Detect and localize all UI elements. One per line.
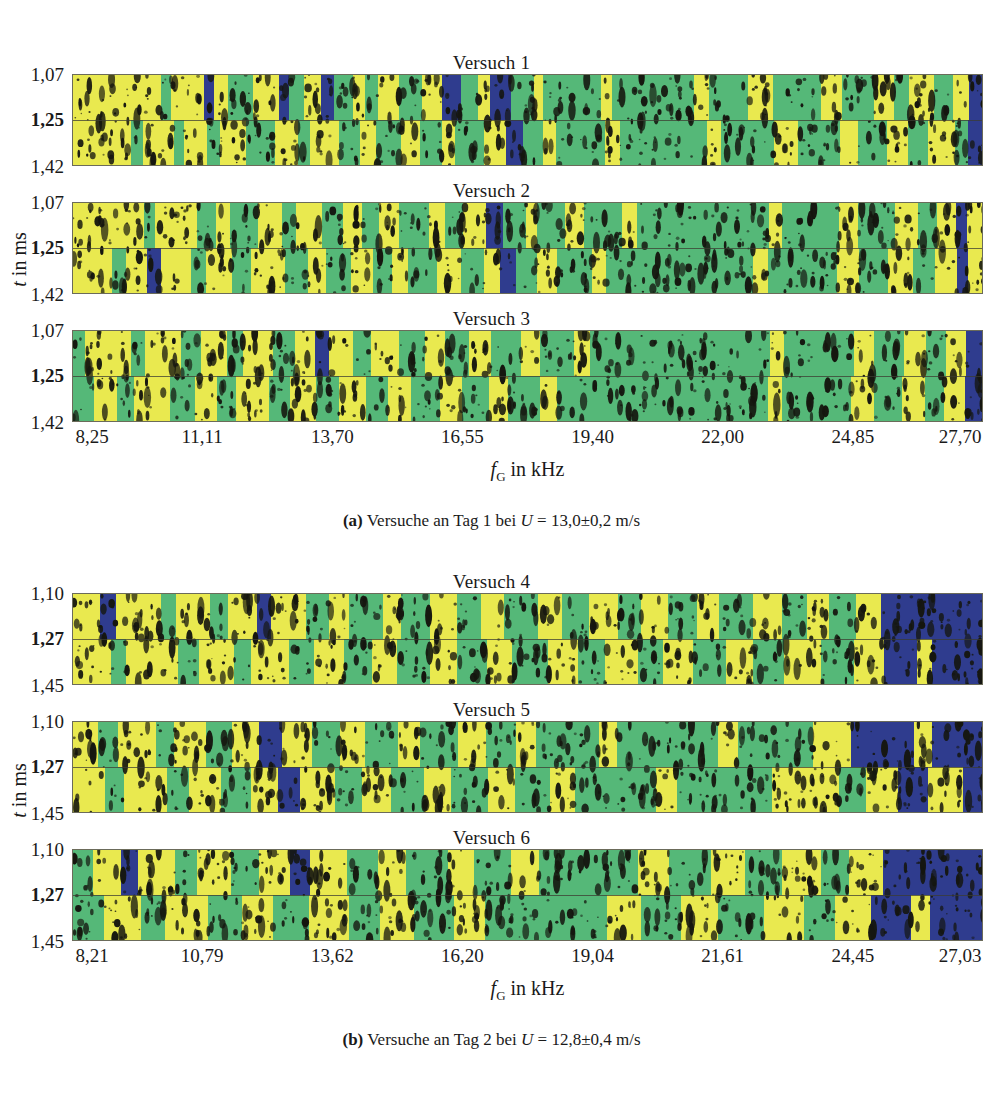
x-axis-title-a: fG in kHz: [72, 458, 983, 485]
panel-group-a: Versuch 11,071,251,42Versuch 21,071,251,…: [0, 52, 983, 422]
caption-pre-a: Versuche an Tag 1 bei: [367, 511, 517, 530]
x-axis-tick-3: 16,55: [441, 426, 484, 448]
panel-block: Versuch 41,101,271,45: [0, 571, 983, 685]
caption-a: (a) Versuche an Tag 1 bei U = 13,0±0,2 m…: [0, 511, 983, 531]
panel-block: Versuch 21,071,251,42: [0, 180, 983, 294]
heatmap-plot[interactable]: [72, 721, 983, 813]
x-axis-tick-2: 13,62: [311, 945, 354, 967]
caption-label-a: (a): [343, 511, 363, 530]
y-axis-tick-2: 1,42: [31, 157, 64, 176]
y-axis-tick-labels: 1,101,271,45: [0, 721, 72, 813]
panel-row: 1,071,251,42: [0, 202, 983, 294]
panel-row: 1,101,271,45: [0, 593, 983, 685]
y-axis-tick-0: 1,10: [31, 840, 64, 859]
subfigure-b: t in ms Versuch 41,101,271,45Versuch 51,…: [0, 531, 983, 1050]
caption-symbol-b: U: [521, 1030, 533, 1049]
x-axis-tick-6: 24,45: [831, 945, 874, 967]
panel-block: Versuch 31,071,251,42: [0, 308, 983, 422]
y-axis-tick-1: 1,25: [31, 366, 64, 385]
heatmap-plot[interactable]: [72, 849, 983, 941]
x-axis-ticks-a: 8,2511,1113,7016,5519,4022,0024,8527,70: [72, 422, 983, 456]
y-axis-tick-labels: 1,101,271,45: [0, 849, 72, 941]
panel-row: 1,071,251,42: [0, 330, 983, 422]
y-axis-tick-labels: 1,071,251,42: [0, 330, 72, 422]
y-axis-tick-0: 1,07: [31, 193, 64, 212]
subfigure-a: t in ms Versuch 11,071,251,42Versuch 21,…: [0, 0, 983, 531]
y-axis-tick-0: 1,10: [31, 712, 64, 731]
x-axis-tick-5: 21,61: [701, 945, 744, 967]
y-axis-tick-labels: 1,071,251,42: [0, 74, 72, 166]
y-axis-tick-labels: 1,071,251,42: [0, 202, 72, 294]
caption-value-b: = 12,8±0,4 m/s: [538, 1030, 641, 1049]
x-axis-tick-1: 11,11: [181, 426, 222, 448]
panel-title: Versuch 5: [0, 699, 983, 721]
caption-label-b: (b): [342, 1030, 363, 1049]
x-axis-tick-1: 10,79: [181, 945, 224, 967]
panel-title: Versuch 4: [0, 571, 983, 593]
y-axis-tick-0: 1,07: [31, 65, 64, 84]
heatmap-plot[interactable]: [72, 593, 983, 685]
panel-block: Versuch 51,101,271,45: [0, 699, 983, 813]
caption-b: (b) Versuche an Tag 2 bei U = 12,8±0,4 m…: [0, 1030, 983, 1050]
panel-title: Versuch 3: [0, 308, 983, 330]
x-axis-tick-4: 19,04: [571, 945, 614, 967]
heatmap-plot[interactable]: [72, 74, 983, 166]
x-axis-tick-4: 19,40: [571, 426, 614, 448]
y-axis-tick-1: 1,25: [31, 238, 64, 257]
y-axis-tick-2: 1,42: [31, 413, 64, 432]
y-axis-tick-2: 1,45: [31, 804, 64, 823]
x-axis-tick-6: 24,85: [831, 426, 874, 448]
heatmap-plot[interactable]: [72, 202, 983, 294]
panel-row: 1,071,251,42: [0, 74, 983, 166]
y-axis-tick-2: 1,45: [31, 932, 64, 951]
x-axis-tick-3: 16,20: [441, 945, 484, 967]
y-axis-tick-0: 1,07: [31, 321, 64, 340]
panel-title: Versuch 6: [0, 827, 983, 849]
panel-row: 1,101,271,45: [0, 721, 983, 813]
caption-pre-b: Versuche an Tag 2 bei: [367, 1030, 517, 1049]
x-axis-tick-7: 27,03: [939, 945, 982, 967]
caption-symbol-a: U: [521, 511, 533, 530]
x-axis-tick-5: 22,00: [701, 426, 744, 448]
x-axis-tick-0: 8,25: [75, 426, 108, 448]
caption-value-a: = 13,0±0,2 m/s: [537, 511, 640, 530]
x-axis-title-b: fG in kHz: [72, 977, 983, 1004]
x-axis-tick-7: 27,70: [939, 426, 982, 448]
panel-row: 1,101,271,45: [0, 849, 983, 941]
y-axis-tick-labels: 1,101,271,45: [0, 593, 72, 685]
panel-group-b: Versuch 41,101,271,45Versuch 51,101,271,…: [0, 571, 983, 941]
y-axis-tick-2: 1,45: [31, 676, 64, 695]
y-axis-tick-1: 1,27: [31, 757, 64, 776]
figure-root: t in ms Versuch 11,071,251,42Versuch 21,…: [0, 0, 983, 1050]
x-axis-tick-2: 13,70: [311, 426, 354, 448]
x-axis-tick-0: 8,21: [75, 945, 108, 967]
panel-title: Versuch 2: [0, 180, 983, 202]
x-axis-ticks-b: 8,2110,7913,6216,2019,0421,6124,4527,03: [72, 941, 983, 975]
y-axis-tick-1: 1,25: [31, 110, 64, 129]
y-axis-tick-2: 1,42: [31, 285, 64, 304]
panel-block: Versuch 11,071,251,42: [0, 52, 983, 166]
panel-title: Versuch 1: [0, 52, 983, 74]
panel-block: Versuch 61,101,271,45: [0, 827, 983, 941]
y-axis-tick-1: 1,27: [31, 629, 64, 648]
y-axis-tick-0: 1,10: [31, 584, 64, 603]
heatmap-plot[interactable]: [72, 330, 983, 422]
y-axis-tick-1: 1,27: [31, 885, 64, 904]
